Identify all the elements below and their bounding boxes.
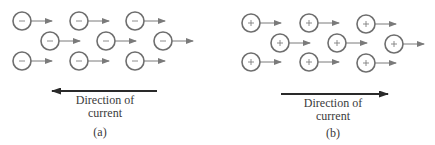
panel-b-caption: Direction of current	[273, 97, 393, 123]
positive-charge-particle	[300, 53, 339, 71]
negative-charge-particle	[70, 12, 109, 30]
positive-charge-particle	[385, 35, 424, 53]
negative-charge-particle	[13, 12, 52, 30]
positive-charge-particles	[242, 14, 424, 72]
diagram-canvas	[0, 0, 435, 145]
positive-charge-particle	[328, 34, 367, 52]
negative-charge-particle	[126, 52, 165, 70]
negative-charge-particle	[41, 32, 80, 50]
caption-line-2: current	[45, 107, 165, 120]
positive-charge-particle	[300, 14, 339, 32]
positive-charge-particle	[242, 53, 281, 71]
positive-charge-particle	[242, 14, 281, 32]
negative-charge-particle	[126, 12, 165, 30]
panel-b-label: (b)	[313, 126, 353, 141]
negative-charge-particle	[154, 32, 193, 50]
panel-a-label: (a)	[80, 125, 120, 140]
caption-line-2: current	[273, 110, 393, 123]
negative-charge-particle	[13, 52, 52, 70]
positive-charge-particle	[357, 15, 396, 33]
positive-charge-particle	[271, 34, 310, 52]
negative-charge-particle	[70, 52, 109, 70]
negative-charge-particle	[97, 32, 136, 50]
positive-charge-particle	[357, 54, 396, 72]
negative-charge-particles	[13, 12, 193, 70]
panel-a-caption: Direction of current	[45, 94, 165, 120]
